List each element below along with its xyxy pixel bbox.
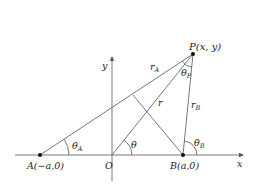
label-point-A: A(−a,0) (26, 160, 64, 171)
label-thetaP: θP (181, 67, 192, 80)
label-x-axis: x (237, 158, 243, 169)
diagram-canvas: P(x, y) A(−a,0) B(a,0) O x y rA rB r θA … (0, 0, 253, 189)
point-A (38, 153, 42, 157)
label-point-B: B(a,0) (169, 160, 199, 171)
label-theta: θ (131, 139, 137, 150)
angle-arc-thetaA (64, 139, 69, 155)
label-rB: rB (191, 99, 201, 112)
label-y-axis: y (101, 60, 108, 71)
label-thetaA: θA (72, 140, 83, 153)
label-origin: O (105, 160, 113, 171)
point-P (191, 52, 195, 56)
label-point-P: P(x, y) (188, 41, 221, 52)
point-B (181, 153, 185, 157)
label-r: r (158, 97, 164, 108)
label-rA: rA (150, 61, 160, 74)
